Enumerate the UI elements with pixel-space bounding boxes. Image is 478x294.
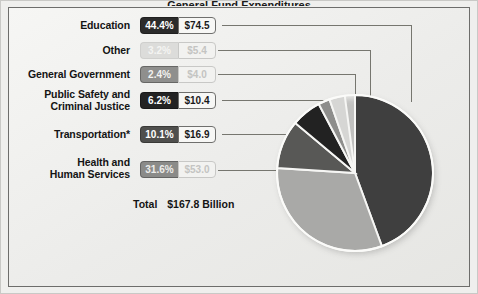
pie-slices xyxy=(274,92,436,254)
chart-title-cutoff: General Fund Expenditures xyxy=(8,0,470,6)
legend-row-education[interactable]: Education 44.4% $74.5 xyxy=(0,15,222,37)
total-amount: $167.8 Billion xyxy=(167,198,234,210)
legend-row-other[interactable]: Other 3.2% $5.4 xyxy=(0,40,222,62)
legend-row-health-and-human-services[interactable]: Health and Human Services 31.6% $53.0 xyxy=(0,158,222,180)
leader-line-other-vertical xyxy=(370,50,371,96)
leader-line-gengov-horizontal xyxy=(218,74,355,75)
leader-line-health-horizontal xyxy=(218,170,282,171)
pie-chart-figure: General Fund Expenditures xyxy=(0,0,478,294)
legend-percent-transportation: 10.1% xyxy=(140,126,178,143)
total-row: Total $167.8 Billion xyxy=(133,198,234,210)
leader-line-other-horizontal xyxy=(218,50,370,51)
legend-label-health-and-human-services: Health and Human Services xyxy=(0,157,130,180)
legend-row-general-government[interactable]: General Government 2.4% $4.0 xyxy=(0,64,222,86)
leader-line-education-horizontal xyxy=(222,25,411,26)
legend-row-transportation[interactable]: Transportation* 10.1% $16.9 xyxy=(0,124,222,146)
legend-percent-education: 44.4% xyxy=(140,17,178,34)
legend-badge-other[interactable]: 3.2% $5.4 xyxy=(140,42,216,59)
legend-badge-education[interactable]: 44.4% $74.5 xyxy=(140,17,216,34)
legend-value-general-government: $4.0 xyxy=(178,66,216,83)
legend-badge-transportation[interactable]: 10.1% $16.9 xyxy=(140,126,216,143)
legend-percent-other: 3.2% xyxy=(140,42,178,59)
leader-line-education-vertical xyxy=(411,25,412,102)
legend-badge-public-safety-and-criminal-justice[interactable]: 6.2% $10.4 xyxy=(140,92,216,109)
legend-percent-public-safety-and-criminal-justice: 6.2% xyxy=(140,92,178,109)
legend-label-public-safety-and-criminal-justice: Public Safety and Criminal Justice xyxy=(0,89,130,112)
legend-row-public-safety-and-criminal-justice[interactable]: Public Safety and Criminal Justice 6.2% … xyxy=(0,90,222,112)
legend-label-general-government: General Government xyxy=(0,69,130,81)
legend-value-transportation: $16.9 xyxy=(178,126,216,143)
total-label: Total xyxy=(133,198,157,210)
legend-value-health-and-human-services: $53.0 xyxy=(178,161,216,178)
legend-percent-general-government: 2.4% xyxy=(140,66,178,83)
legend-percent-health-and-human-services: 31.6% xyxy=(140,161,178,178)
legend-badge-health-and-human-services[interactable]: 31.6% $53.0 xyxy=(140,161,216,178)
legend-value-education: $74.5 xyxy=(178,17,216,34)
legend-value-other: $5.4 xyxy=(178,42,216,59)
legend-label-transportation: Transportation* xyxy=(0,129,130,141)
legend-value-public-safety-and-criminal-justice: $10.4 xyxy=(178,92,216,109)
legend-label-other: Other xyxy=(0,45,130,57)
legend-label-education: Education xyxy=(0,20,130,32)
legend-badge-general-government[interactable]: 2.4% $4.0 xyxy=(140,66,216,83)
pie-chart xyxy=(274,92,436,254)
